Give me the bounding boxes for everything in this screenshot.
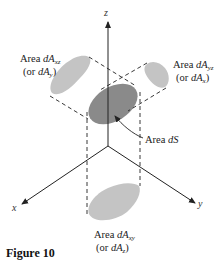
x-axis — [22, 146, 108, 204]
area-xz-label: Area dAxz (or dAy) — [20, 52, 61, 78]
projection-xy-blob — [88, 183, 139, 220]
area-yz-label: Area dAyz (or dAx) — [173, 58, 214, 84]
surface-element-ds — [81, 75, 145, 132]
axes — [22, 22, 195, 204]
y-axis-label: y — [198, 198, 202, 209]
x-axis-label: x — [12, 202, 16, 213]
figure-caption: Figure 10 — [6, 246, 55, 261]
area-ds-label: Area dS — [145, 133, 179, 146]
surface-projection-figure: z x y Area dAxz (or dAy) Area dAyz (or d… — [0, 0, 220, 268]
z-axis-label: z — [104, 7, 108, 18]
projection-yz-blob — [144, 62, 168, 88]
area-xy-label: Area dAxy (or dAz) — [94, 228, 135, 254]
